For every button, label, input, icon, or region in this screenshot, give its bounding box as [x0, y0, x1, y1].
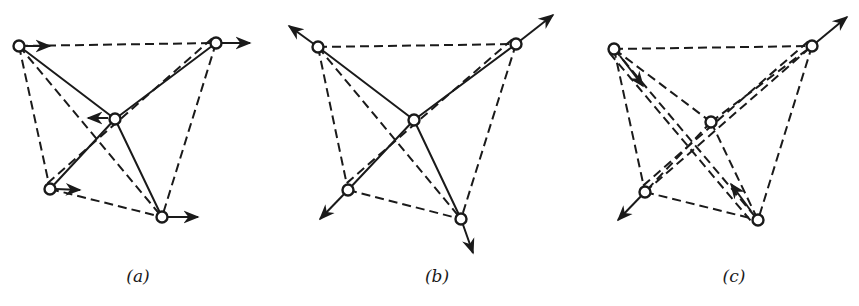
atom-node-bl: [45, 184, 56, 195]
panel-c-diagram: [609, 17, 848, 226]
bond-edge-c-bl: [50, 119, 115, 189]
atom-node-br: [456, 214, 467, 225]
dashed-edge-tl-tr: [318, 44, 516, 47]
caption-a: (a): [126, 266, 149, 286]
bond-edge-c-tr: [115, 43, 216, 119]
bond-edge-c-bl: [348, 120, 414, 190]
caption-c: (c): [723, 266, 746, 286]
dashed-edge-tr-br: [461, 44, 516, 219]
dashed-edge-tl-br: [318, 47, 461, 219]
dashed-edge-c-bl: [645, 122, 711, 192]
bond-edge-tl-br: [614, 49, 758, 220]
parallel-dashed-edge-tl-br: [609, 53, 753, 224]
dashed-edge-c-tr: [711, 46, 812, 122]
dashed-edge-tr-br: [162, 43, 216, 217]
dashed-edge-tl-bl: [318, 47, 348, 190]
dashed-edge-tl-br: [19, 46, 162, 217]
dashed-edge-tr-bl: [46, 38, 212, 184]
atom-node-tl: [609, 44, 620, 55]
panel-b-diagram: [289, 15, 553, 253]
bond-edge-c-tr: [414, 44, 516, 120]
displacement-arrow-icon: [516, 15, 553, 44]
dashed-edge-tr-bl: [344, 39, 512, 185]
dashed-edge-tl-bl: [19, 46, 50, 189]
atom-node-c: [706, 117, 717, 128]
dashed-edge-bl-br: [50, 189, 162, 217]
atom-node-bl: [343, 185, 354, 196]
atom-node-tl: [14, 41, 25, 52]
dashed-edge-c-br: [711, 122, 758, 220]
atom-node-br: [753, 215, 764, 226]
atom-node-tl: [313, 42, 324, 53]
atom-node-tr: [807, 41, 818, 52]
bond-edge-c-tl: [318, 47, 414, 120]
atom-node-tr: [511, 39, 522, 50]
atom-node-bl: [640, 187, 651, 198]
dashed-edge-tr-br: [758, 46, 812, 220]
dashed-edge-c-tl: [614, 49, 711, 122]
caption-b: (b): [425, 266, 449, 286]
parallel-dashed-edge-tr-bl: [641, 41, 808, 187]
vibration-modes-figure: [0, 0, 859, 306]
atom-node-c: [409, 115, 420, 126]
dashed-edge-tl-tr: [614, 46, 812, 49]
atom-node-br: [157, 212, 168, 223]
bond-edge-bl-tr: [645, 46, 812, 192]
dashed-edge-bl-br: [348, 190, 461, 219]
displacement-arrow-icon: [812, 17, 847, 46]
dashed-edge-tl-bl: [614, 49, 645, 192]
displacement-arrow-icon: [56, 189, 80, 190]
atom-node-tr: [211, 38, 222, 49]
panel-a-diagram: [14, 38, 251, 223]
atom-node-c: [110, 114, 121, 125]
